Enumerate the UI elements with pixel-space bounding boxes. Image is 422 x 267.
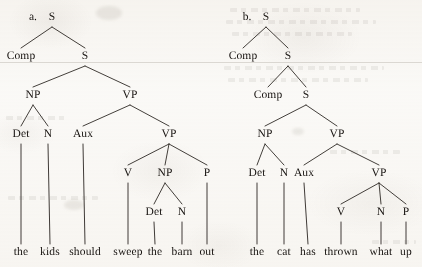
branch-a-NP2-to-a-Det2 [154, 183, 165, 204]
figure-item-label-b: b. [243, 12, 252, 24]
tree-word-b-w2: cat [277, 247, 291, 259]
tree-word-a-w2: kids [40, 247, 60, 259]
tree-node-a-Comp: Comp [7, 51, 36, 63]
branch-a-S2-to-a-NP1 [33, 66, 85, 87]
tree-word-a-w3: should [69, 247, 101, 259]
tree-word-b-w4: thrown [324, 247, 357, 259]
tree-word-a-w6: barn [171, 247, 192, 259]
branch-a-NP2-to-a-N2 [165, 183, 182, 204]
tree-node-b-P: P [403, 207, 410, 219]
tree-word-b-w3: has [300, 247, 316, 259]
branch-a-VP2-to-a-P [169, 144, 207, 165]
tree-node-a-Det2: Det [146, 207, 163, 219]
tree-node-b-N2: N [377, 207, 385, 219]
stem-a-Det2-to-a-w5 [154, 222, 155, 244]
tree-node-b-VP2: VP [372, 168, 387, 180]
branch-b-VP2-to-b-N2 [379, 183, 381, 204]
tree-node-a-Aux: Aux [73, 129, 93, 141]
branch-a-S2-to-a-VP1 [85, 66, 130, 87]
branch-a-NP1-to-a-Det1 [21, 105, 33, 126]
tree-node-b-S2: S [285, 51, 292, 63]
tree-word-b-w6: up [400, 247, 412, 259]
branch-b-S3-to-b-VP1 [306, 105, 337, 126]
tree-word-b-w1: the [250, 247, 265, 259]
tree-branch-lines [0, 0, 422, 267]
tree-node-a-N2: N [178, 207, 186, 219]
branch-a-VP1-to-a-VP2 [130, 105, 169, 126]
branch-b-VP2-to-b-V [341, 183, 379, 204]
tree-node-b-N1: N [280, 168, 288, 180]
branch-a-NP1-to-a-N1 [33, 105, 48, 126]
tree-node-a-VP1: VP [123, 90, 138, 102]
tree-node-b-NP: NP [258, 129, 273, 141]
figure-item-label-a: a. [29, 12, 37, 24]
tree-node-b-Det: Det [249, 168, 266, 180]
tree-node-b-VP1: VP [330, 129, 345, 141]
branch-b-VP2-to-b-P [379, 183, 406, 204]
tree-node-b-S1: S [263, 12, 270, 24]
branch-b-NP-to-b-Det [257, 144, 265, 165]
tree-word-b-w5: what [370, 247, 393, 259]
branch-b-VP1-to-b-Aux [304, 144, 337, 165]
tree-node-b-V: V [337, 207, 345, 219]
tree-node-a-V: V [124, 168, 132, 180]
tree-word-a-w5: the [148, 247, 163, 259]
tree-node-a-S2: S [82, 51, 89, 63]
branch-b-S3-to-b-NP [265, 105, 306, 126]
branch-b-S1-to-b-S2 [266, 27, 288, 48]
figure-page: a.SCompSNPVPDetNAuxVPVNPPDetNthekidsshou… [0, 0, 422, 267]
tree-node-b-S3: S [303, 90, 310, 102]
stem-b-Aux-to-b-w3 [304, 183, 308, 244]
branch-a-VP2-to-a-NP2 [165, 144, 169, 165]
branch-b-S2-to-b-Comp2 [268, 66, 288, 87]
tree-node-a-P: P [204, 168, 211, 180]
tree-word-a-w7: out [199, 247, 214, 259]
branch-b-NP-to-b-N1 [265, 144, 284, 165]
tree-node-a-Det1: Det [13, 129, 30, 141]
tree-word-a-w4: sweep [113, 247, 143, 259]
branch-a-VP2-to-a-V [128, 144, 169, 165]
tree-node-b-Comp2: Comp [254, 90, 283, 102]
branch-b-S1-to-b-Comp1 [243, 27, 266, 48]
tree-node-a-NP1: NP [26, 90, 41, 102]
branch-a-S1-to-a-Comp [21, 27, 52, 48]
tree-node-a-NP2: NP [158, 168, 173, 180]
tree-node-a-VP2: VP [162, 129, 177, 141]
tree-node-b-Aux: Aux [294, 168, 314, 180]
stem-a-Aux-to-a-w3 [83, 144, 85, 244]
branch-b-VP1-to-b-VP2 [337, 144, 379, 165]
branch-b-S2-to-b-S3 [288, 66, 306, 87]
tree-node-a-S1: S [49, 12, 56, 24]
tree-node-a-N1: N [44, 129, 52, 141]
tree-word-a-w1: the [14, 247, 29, 259]
branch-a-S1-to-a-S2 [52, 27, 85, 48]
branch-a-VP1-to-a-Aux [83, 105, 130, 126]
stem-a-N1-to-a-w2 [48, 144, 50, 244]
tree-node-b-Comp1: Comp [229, 51, 258, 63]
